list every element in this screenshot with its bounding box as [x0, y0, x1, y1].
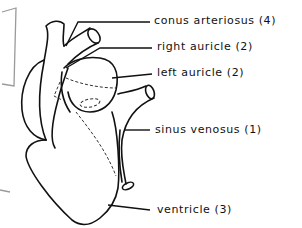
ventricle-septum-dashed [76, 112, 116, 176]
label-ventricle: ventricle (3) [157, 204, 232, 216]
vein-top [118, 86, 146, 94]
atrial-septum-dashed [66, 78, 116, 88]
aortic-branch-bottom [68, 43, 98, 64]
label-left-auricle: left auricle (2) [157, 67, 244, 79]
label-conus-arteriosus: conus arteriosus (4) [154, 15, 276, 27]
sinus-venosus-right-edge [121, 98, 154, 184]
page-edge-mark [0, 190, 10, 192]
page-edge-fragment [2, 8, 16, 86]
leader-right-auricle [66, 48, 152, 68]
leader-left-auricle [112, 74, 152, 78]
leader-ventricle [108, 205, 150, 210]
ventricle-outline [26, 112, 119, 224]
truncus-right-edge [52, 68, 68, 148]
leader-conus-arteriosus [66, 22, 150, 46]
left-auricle-outline [64, 57, 117, 112]
label-sinus-venosus: sinus venosus (1) [155, 124, 262, 136]
heart-illustration [0, 0, 302, 228]
truncus-left-edge [40, 21, 64, 140]
vena-cava-opening [121, 181, 134, 192]
heart-diagram: conus arteriosus (4) right auricle (2) l… [0, 0, 302, 228]
opening-dashed [79, 97, 100, 108]
label-right-auricle: right auricle (2) [157, 41, 253, 53]
